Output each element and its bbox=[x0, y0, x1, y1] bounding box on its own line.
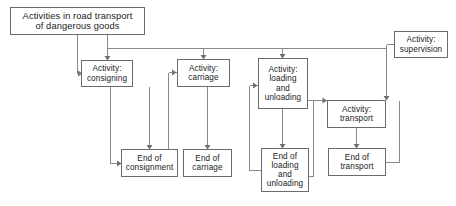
node-label: End of consignment bbox=[124, 154, 176, 172]
edge-supervision-to-transport bbox=[384, 45, 390, 101]
node-label: Activity: transport bbox=[338, 105, 375, 123]
node-activity-supervision[interactable]: Activity: supervision bbox=[394, 31, 448, 58]
node-label: Activity: loading and unloading bbox=[263, 65, 303, 102]
edge-loading-to-transport bbox=[308, 98, 328, 177]
node-label: Activity: consigning bbox=[85, 64, 129, 82]
node-activity-carriage[interactable]: Activity: carriage bbox=[177, 59, 230, 87]
node-label: Activities in road transport of dangerou… bbox=[21, 11, 135, 32]
edge-end-consignment-to-consigning bbox=[79, 74, 122, 167]
node-activities-root[interactable]: Activities in road transport of dangerou… bbox=[10, 7, 145, 35]
node-activity-consigning[interactable]: Activity: consigning bbox=[81, 60, 133, 87]
edge-carriage-to-end-carriage bbox=[205, 87, 211, 150]
edge-bus-to-loading-top bbox=[280, 49, 286, 59]
node-activity-transport[interactable]: Activity: transport bbox=[327, 100, 386, 128]
node-label: End of transport bbox=[338, 153, 375, 171]
node-end-of-transport[interactable]: End of transport bbox=[328, 148, 386, 176]
edge-root-distribution-bus bbox=[108, 35, 387, 49]
node-end-of-loading-unloading[interactable]: End of loading and unloading bbox=[261, 148, 309, 192]
node-label: End of loading and unloading bbox=[265, 152, 305, 189]
node-label: Activity: supervision bbox=[398, 35, 445, 53]
edge-bus-to-consigning-top bbox=[105, 49, 111, 61]
edge-bus-to-carriage-top bbox=[201, 49, 207, 60]
node-activity-loading-unloading[interactable]: Activity: loading and unloading bbox=[258, 58, 308, 109]
node-label: Activity: carriage bbox=[186, 64, 220, 82]
node-end-of-carriage[interactable]: End of carriage bbox=[183, 149, 232, 177]
edge-loading-to-end-loading bbox=[280, 109, 286, 149]
node-end-of-consignment[interactable]: End of consignment bbox=[121, 149, 178, 177]
edge-transport-to-end-transport bbox=[354, 128, 360, 149]
flowchart-diagram: Activities in road transport of dangerou… bbox=[0, 0, 456, 206]
node-label: End of carriage bbox=[190, 154, 224, 172]
edge-consigning-to-end-consignment bbox=[147, 87, 153, 150]
